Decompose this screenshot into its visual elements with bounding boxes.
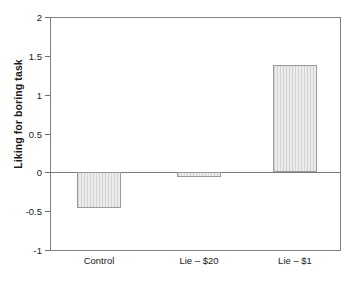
bar-lie-1[interactable]: [273, 65, 317, 172]
y-tick-label--1: -1: [2, 246, 42, 256]
x-axis-label-control: Control: [54, 256, 144, 266]
y-tick-label-2: 2: [2, 13, 42, 23]
bar-lie-20[interactable]: [177, 172, 221, 177]
y-tick-label-0: 0: [2, 168, 42, 178]
y-tick-label--0.5: -0.5: [2, 207, 42, 217]
y-tick-label-0.5: 0.5: [2, 130, 42, 140]
bar-chart-figure: Liking for boring task 2 1.5 1 0.5 0 -0.…: [0, 0, 354, 282]
x-axis-label-lie-20: Lie – $20: [154, 256, 244, 266]
y-tick-label-1: 1: [2, 91, 42, 101]
y-tick-label-1.5: 1.5: [2, 52, 42, 62]
x-axis-label-lie-1: Lie – $1: [250, 256, 340, 266]
bar-control[interactable]: [77, 172, 121, 208]
